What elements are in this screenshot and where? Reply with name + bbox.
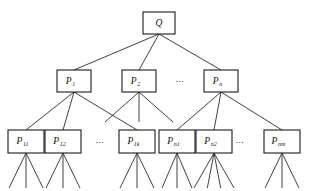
node-subscript-pn: n [219,81,222,87]
leaf-line-p11-2 [26,153,43,188]
leaf-line-p1k-2 [137,153,154,188]
leaf-line-pnm-0 [265,153,282,188]
ellipsis-ell-level2: … [175,74,185,84]
node-pn2[interactable]: Pn2 [196,130,232,153]
edge-q-p2 [139,34,159,70]
leaf-line-pn1-2 [177,153,192,188]
node-subscript-pnm: nm [278,141,286,147]
tree-diagram: QP1P2PnP11P12P1kPn1Pn2Pnm ……… [0,0,309,191]
edge-p1-p1k [74,92,137,130]
node-subscript-p11: 11 [23,141,29,147]
node-p2[interactable]: P2 [122,70,156,92]
node-p11[interactable]: P11 [8,130,44,153]
node-subscript-p1k: 1k [134,141,140,147]
node-q[interactable]: Q [143,12,175,34]
edge-p1-p11 [26,92,74,130]
ellipsis-ell-level3-right: … [235,135,245,145]
edge-p1-p12 [63,92,74,130]
node-subscript-pn2: n2 [211,141,217,147]
tree-diagram-canvas: QP1P2PnP11P12P1kPn1Pn2Pnm ……… [0,0,309,191]
node-pn1[interactable]: Pn1 [159,130,195,153]
node-subscript-pn1: n1 [174,141,180,147]
edge-pn-pn1 [177,92,221,130]
edge-q-p1 [74,34,159,70]
edge-pn-pnm [221,92,282,130]
node-p12[interactable]: P12 [45,130,81,153]
leaf-line-p12-0 [46,153,63,188]
leaf-line-layer [9,153,299,188]
ellipsis-ell-level3-left: … [95,135,105,145]
node-subscript-p2: 2 [137,81,140,87]
node-pn[interactable]: Pn [204,70,238,92]
node-p1[interactable]: P1 [57,70,91,92]
leaf-line-p11-0 [9,153,26,188]
leaf-line-p1k-0 [120,153,137,188]
node-layer: QP1P2PnP11P12P1kPn1Pn2Pnm [8,12,300,153]
leaf-line-p12-2 [63,153,80,188]
stub-p2-2 [139,92,173,122]
leaf-line-pn1-0 [162,153,177,188]
node-label-q: Q [156,18,163,28]
stub-p2-0 [105,92,139,122]
node-subscript-p1: 1 [72,81,75,87]
node-subscript-p12: 12 [60,141,66,147]
node-pnm[interactable]: Pnm [264,130,300,153]
edge-q-pn [159,34,221,70]
node-p1k[interactable]: P1k [119,130,155,153]
leaf-line-pnm-2 [282,153,299,188]
